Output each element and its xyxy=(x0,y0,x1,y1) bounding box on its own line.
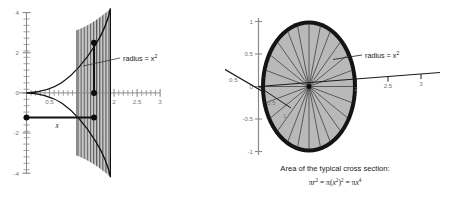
right-x-tick-2: 2 xyxy=(354,85,358,92)
left-x-tick-3: 3 xyxy=(158,98,162,105)
radius-top-dot xyxy=(91,40,97,46)
right-y-tick-neg0p5: -0.5 xyxy=(242,115,253,122)
right-y-tick-neg1: -1 xyxy=(247,148,253,155)
left-x-tick-2: 2 xyxy=(112,98,116,105)
radius-bottom-dot xyxy=(91,115,97,121)
depth-tick-outer-0p5: 0.5 xyxy=(229,76,238,83)
right-plot-svg: 1 0.5 0 -0.5 -1 0.5 xyxy=(225,0,450,197)
right-radius-label-text: radius = x xyxy=(365,51,397,60)
right-radius-label-sup: 2 xyxy=(396,50,399,56)
left-y-tick-0: 0 xyxy=(16,89,20,96)
depth-tick-inner-1: 1 xyxy=(283,112,287,119)
left-y-tick-4: 4 xyxy=(16,9,20,16)
caption-formula: πr2 = π(x2)2 = πx4 xyxy=(309,177,362,187)
right-x-tick-2p5: 2.5 xyxy=(384,82,393,89)
svg-text:radius = x2: radius = x2 xyxy=(123,53,157,63)
caption-line-1: Area of the typical cross section: xyxy=(280,164,389,173)
figure-container: 4 2 0 -2 -4 xyxy=(0,0,450,197)
right-y-tick-0p5: 0.5 xyxy=(244,50,253,57)
right-radius-annotation: radius = x2 xyxy=(365,50,399,60)
left-x-tick-2p5: 2.5 xyxy=(133,98,142,105)
right-figure-panel: 1 0.5 0 -0.5 -1 0.5 xyxy=(225,0,450,197)
left-x-tick-0p5: 0.5 xyxy=(45,98,54,105)
svg-text:radius = x2: radius = x2 xyxy=(365,50,399,60)
left-radius-label-sup: 2 xyxy=(154,53,157,59)
left-y-tick-neg4: -4 xyxy=(13,170,19,177)
right-y-tick-1: 1 xyxy=(250,18,254,25)
left-plot-svg: 4 2 0 -2 -4 xyxy=(0,0,225,197)
right-x-tick-3: 3 xyxy=(419,80,423,87)
depth-tick-inner-0p5: 0.5 xyxy=(267,99,276,106)
left-y-tick-2: 2 xyxy=(16,49,20,56)
left-radius-label-text: radius = x xyxy=(123,54,155,63)
origin-dot xyxy=(24,115,30,121)
axis-dot xyxy=(91,90,97,96)
left-radius-annotation: radius = x2 xyxy=(123,53,157,63)
left-x-segment-label: x xyxy=(54,122,59,130)
svg-text:πr2 = π(x2)2 = πx4: πr2 = π(x2)2 = πx4 xyxy=(309,177,362,187)
left-y-tick-neg2: -2 xyxy=(13,129,19,136)
disk-center-dot xyxy=(307,84,312,89)
left-figure-panel: 4 2 0 -2 -4 xyxy=(0,0,225,197)
